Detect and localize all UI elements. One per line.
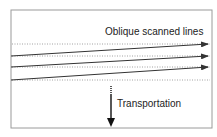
transportation-label: Transportation: [117, 98, 181, 110]
arrow-down-icon: [107, 118, 115, 127]
transportation-arrow: [107, 86, 115, 127]
dotted-reference-lines: [12, 44, 210, 80]
scan-line-2: [11, 56, 208, 67]
diagram-canvas: [0, 0, 217, 137]
scan-line-1: [11, 44, 208, 56]
scan-line-3: [11, 67, 208, 80]
oblique-scan-lines: [11, 44, 208, 80]
scan-lines-label: Oblique scanned lines: [105, 26, 203, 38]
